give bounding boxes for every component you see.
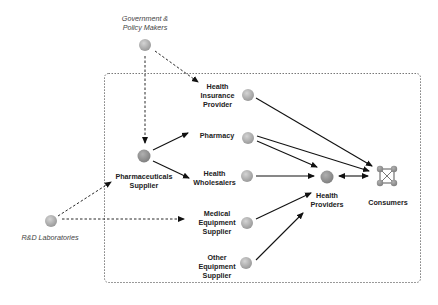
label-medical-equipment: Medical Equipment Supplier: [192, 209, 242, 236]
healthcare-supply-chain-diagram: Government & Policy Makers R&D Laborator…: [0, 0, 438, 305]
solid-edges: [153, 98, 372, 260]
label-wholesalers: Health Wholesalers: [188, 169, 241, 187]
node-medical-equipment: [241, 217, 253, 229]
label-rnd: R&D Laboratories: [10, 233, 90, 242]
label-gov: Government & Policy Makers: [110, 14, 180, 32]
node-rnd: [45, 215, 57, 227]
label-pharmacy: Pharmacy: [193, 131, 241, 140]
edge-pharma-supplier-to-pharmacy: [153, 133, 188, 150]
edge-gov-to-insurance: [155, 51, 198, 82]
consumers-network-icon: [377, 166, 397, 186]
dashed-edges: [58, 51, 198, 219]
label-pharma-supplier: Pharmaceuticals Supplier: [104, 172, 184, 190]
edge-other-equipment-to-providers: [256, 213, 303, 260]
node-insurance: [242, 89, 254, 101]
label-insurance: Health Insurance Provider: [195, 82, 240, 109]
label-consumers: Consumers: [363, 198, 413, 207]
label-other-equipment: Other Equipment Supplier: [192, 253, 242, 280]
node-pharmacy: [242, 132, 254, 144]
label-providers: Health Providers: [302, 191, 352, 209]
node-wholesalers: [241, 170, 253, 182]
edge-insurance-to-consumers: [256, 98, 372, 166]
node-pharma-supplier: [138, 150, 151, 163]
node-providers: [321, 171, 334, 184]
node-gov: [139, 39, 151, 51]
